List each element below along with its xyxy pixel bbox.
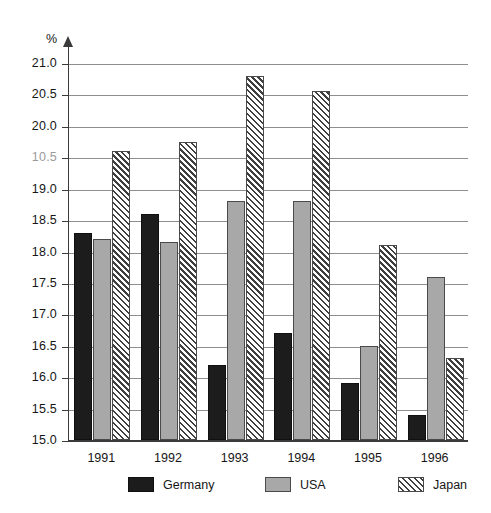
legend-item-usa: USA [265,477,326,492]
y-axis-label: 18.5 [32,213,57,227]
bar-germany-1996 [408,415,426,440]
legend-label-germany: Germany [163,478,214,492]
y-axis-label: 16.0 [32,370,57,384]
legend-swatch-japan-icon [398,477,424,492]
bar-usa-1994 [293,201,311,440]
bar-group [74,64,130,440]
y-axis-tick [62,158,69,159]
y-axis-label: 17.0 [32,307,57,321]
bar-germany-1994 [274,333,292,440]
legend-swatch-usa-icon [265,477,291,492]
bar-germany-1992 [141,214,159,440]
y-axis-label: 15.5 [32,402,57,416]
bar-group [341,64,397,440]
y-axis-tick [62,190,69,191]
y-axis-tick [62,253,69,254]
y-axis-tick [62,410,69,411]
bar-usa-1992 [160,242,178,440]
plot-area [68,64,468,441]
bar-germany-1991 [74,233,92,440]
y-axis-label: 18.0 [32,245,57,259]
bar-usa-1995 [360,346,378,440]
bar-japan-1991 [112,151,130,440]
x-axis-label-1992: 1992 [135,451,202,465]
y-axis-label: 16.5 [32,339,57,353]
y-axis-label: 10.5 [32,150,57,164]
legend-label-japan: Japan [433,478,467,492]
legend-item-japan: Japan [398,477,467,492]
y-axis-label: 15.0 [32,433,57,447]
y-axis-tick [62,347,69,348]
bar-usa-1993 [227,201,245,440]
bar-group [408,64,464,440]
y-axis-tick [62,378,69,379]
bar-group [274,64,330,440]
y-axis-unit-label: % [46,32,57,46]
x-axis-label-1993: 1993 [201,451,268,465]
gridline [69,441,468,442]
bar-germany-1993 [208,365,226,440]
x-axis-label-1991: 1991 [68,451,135,465]
y-axis-tick [62,315,69,316]
legend-label-usa: USA [300,478,326,492]
bar-group [208,64,264,440]
y-axis-label: 20.0 [32,119,57,133]
y-axis-tick [62,127,69,128]
x-axis-label-1994: 1994 [268,451,335,465]
bar-usa-1996 [427,277,445,440]
bar-germany-1995 [341,383,359,440]
y-axis-label: 19.0 [32,182,57,196]
y-axis-tick [62,284,69,285]
bar-japan-1996 [446,358,464,440]
y-axis-tick [62,441,69,442]
y-axis-label: 21.0 [32,56,57,70]
chart-legend: GermanyUSAJapan [68,477,468,499]
y-axis-label: 20.5 [32,87,57,101]
x-axis-label-1996: 1996 [401,451,468,465]
y-axis-tick [62,64,69,65]
legend-item-germany: Germany [128,477,214,492]
x-axis-label-1995: 1995 [335,451,402,465]
y-axis-tick [62,221,69,222]
bar-group [141,64,197,440]
y-axis-label: 17.5 [32,276,57,290]
bar-usa-1991 [93,239,111,440]
y-axis-stem [68,46,69,66]
bar-japan-1995 [379,245,397,440]
bar-japan-1993 [246,76,264,440]
legend-swatch-germany-icon [128,477,154,492]
bar-chart: % GermanyUSAJapan 21.020.520.010.519.018… [0,0,491,513]
bar-japan-1994 [312,91,330,440]
bar-japan-1992 [179,142,197,440]
y-axis-tick [62,95,69,96]
